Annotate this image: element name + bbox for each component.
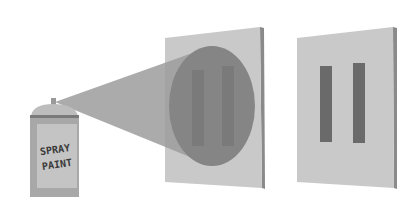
spray-can: SPRAY PAINT [30,98,79,197]
spray-spot [169,46,255,166]
slit-shadow-2 [222,66,234,146]
panel-face [297,27,394,188]
result-panel [297,27,397,189]
can-rim [30,115,79,118]
paint-stripe-1 [320,66,332,142]
spray-paint-diagram: SPRAY PAINT [0,0,417,214]
paint-stripe-2 [353,63,365,143]
slit-shadow-1 [192,70,204,146]
